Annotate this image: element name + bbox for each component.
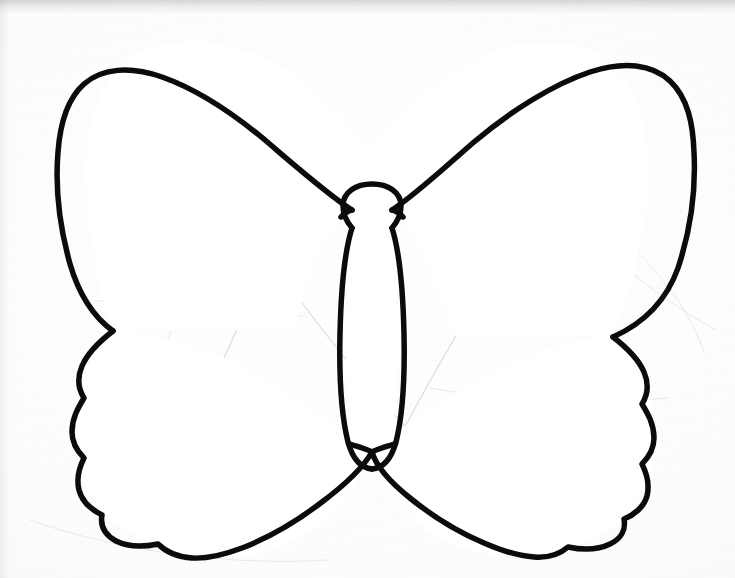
scanned-page: Butterfly Outline Template <box>0 0 735 578</box>
wing-white-fills <box>74 41 656 557</box>
lower-left-wing-fill <box>74 330 368 557</box>
butterfly-outline-drawing <box>0 0 735 578</box>
lower-right-wing-fill <box>374 336 656 556</box>
